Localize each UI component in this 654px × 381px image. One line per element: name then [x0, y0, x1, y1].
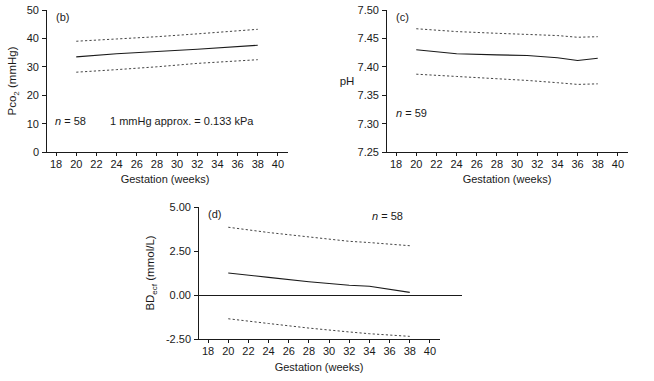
- series-line-c-lower-95-limit: [416, 74, 598, 84]
- x-tick-label-c: 22: [430, 158, 442, 170]
- x-tick-label-d: 32: [343, 345, 355, 357]
- sample-size-value-d: = 58: [378, 210, 403, 222]
- sample-size-value-b: = 58: [61, 115, 86, 127]
- series-line-d-lower-95-limit: [228, 319, 410, 337]
- sample-size-annotation-c: n = 59: [396, 107, 427, 119]
- x-tick-label-d: 22: [242, 345, 254, 357]
- y-tick-label-c: 7.35: [358, 89, 379, 101]
- y-tick-label-c: 7.40: [358, 61, 379, 73]
- y-tick-label-b: 40: [27, 32, 39, 44]
- x-tick-label-b: 20: [70, 158, 82, 170]
- x-tick-label-c: 28: [491, 158, 503, 170]
- panel-c-x-ticks: 182022242628303234363840: [390, 152, 624, 170]
- series-line-b-upper-95-limit: [76, 29, 258, 41]
- x-axis-title-d: Gestation (weeks): [275, 361, 364, 373]
- x-tick-label-d: 18: [202, 345, 214, 357]
- panel-b-x-ticks: 182022242628303234363840: [50, 152, 284, 170]
- y-tick-label-d: 2.50: [170, 245, 191, 257]
- x-tick-label-c: 26: [471, 158, 483, 170]
- x-tick-label-b: 26: [131, 158, 143, 170]
- y-tick-label-d: -2.50: [166, 333, 191, 345]
- panel-d-y-ticks: -2.500.002.505.00: [166, 201, 198, 345]
- x-tick-label-d: 26: [283, 345, 295, 357]
- svg-text:Pco2 (mmHg): Pco2 (mmHg): [6, 46, 21, 115]
- series-line-b-lower-95-limit: [76, 60, 258, 72]
- x-tick-label-b: 22: [90, 158, 102, 170]
- y-tick-label-c: 7.25: [358, 146, 379, 158]
- sample-size-annotation-b: n = 58: [55, 115, 86, 127]
- x-tick-label-b: 38: [252, 158, 264, 170]
- x-tick-label-c: 24: [450, 158, 462, 170]
- chart-panel-b: 01020304050 182022242628303234363840 (b)…: [0, 0, 330, 195]
- series-line-c-upper-95-limit: [416, 29, 598, 38]
- series-line-c-mean: [416, 50, 598, 61]
- unit-conversion-annotation-b: 1 mmHg approx. = 0.133 kPa: [110, 115, 254, 127]
- x-tick-label-c: 36: [571, 158, 583, 170]
- x-tick-label-b: 28: [151, 158, 163, 170]
- y-tick-label-b: 20: [27, 89, 39, 101]
- y-axis-title-c: pH: [340, 75, 355, 87]
- y-axis-title-b: Pco2 (mmHg): [6, 46, 21, 115]
- x-tick-label-d: 30: [323, 345, 335, 357]
- y-tick-label-d: 0.00: [170, 289, 191, 301]
- x-tick-label-d: 28: [303, 345, 315, 357]
- y-axis-title-b-main: Pco: [6, 96, 18, 116]
- x-axis-title-c: Gestation (weeks): [463, 173, 552, 185]
- y-tick-label-c: 7.45: [358, 32, 379, 44]
- x-tick-label-c: 30: [511, 158, 523, 170]
- x-tick-label-d: 36: [383, 345, 395, 357]
- panel-b-series: [76, 29, 258, 72]
- y-tick-label-b: 50: [27, 4, 39, 16]
- x-tick-label-c: 18: [390, 158, 402, 170]
- sample-size-annotation-d: n = 58: [372, 210, 403, 222]
- x-tick-label-c: 32: [531, 158, 543, 170]
- x-tick-label-c: 38: [592, 158, 604, 170]
- y-axis-title-d-main: BD: [144, 295, 156, 311]
- panel-letter-c: (c): [396, 11, 409, 23]
- sample-size-value-c: = 59: [402, 107, 427, 119]
- y-axis-title-b-unit: (mmHg): [6, 46, 18, 91]
- x-tick-label-b: 40: [272, 158, 284, 170]
- x-tick-label-c: 34: [551, 158, 563, 170]
- chart-svg-b: 01020304050 182022242628303234363840 (b)…: [0, 0, 330, 195]
- x-tick-label-b: 24: [110, 158, 122, 170]
- panel-c-series: [416, 29, 598, 85]
- panel-d-series: [228, 227, 410, 336]
- x-tick-label-d: 38: [404, 345, 416, 357]
- x-axis-title-b: Gestation (weeks): [121, 173, 210, 185]
- y-tick-label-c: 7.50: [358, 4, 379, 16]
- panel-letter-d: (d): [208, 208, 221, 220]
- y-axis-title-d: BDecf (mmol/L): [144, 235, 159, 310]
- x-tick-label-b: 18: [50, 158, 62, 170]
- chart-svg-c: 7.257.307.357.407.457.50 182022242628303…: [330, 0, 654, 195]
- panel-c-y-ticks: 7.257.307.357.407.457.50: [358, 4, 386, 158]
- series-line-b-mean: [76, 45, 258, 57]
- x-tick-label-d: 34: [363, 345, 375, 357]
- panel-letter-b: (b): [56, 11, 69, 23]
- y-tick-label-c: 7.30: [358, 118, 379, 130]
- x-tick-label-d: 20: [222, 345, 234, 357]
- series-line-d-upper-95-limit: [228, 227, 410, 245]
- panel-c-axes: [386, 10, 628, 152]
- series-line-d-mean: [228, 273, 410, 292]
- y-tick-label-b: 0: [33, 146, 39, 158]
- y-tick-label-d: 5.00: [170, 201, 191, 213]
- chart-svg-d: -2.500.002.505.00 1820222426283032343638…: [132, 193, 532, 381]
- x-tick-label-b: 32: [191, 158, 203, 170]
- x-tick-label-d: 24: [262, 345, 274, 357]
- figure-container: 01020304050 182022242628303234363840 (b)…: [0, 0, 654, 381]
- y-axis-title-d-unit: (mmol/L): [144, 235, 156, 284]
- panel-d-x-ticks: 182022242628303234363840: [202, 339, 436, 357]
- x-tick-label-d: 40: [424, 345, 436, 357]
- x-tick-label-b: 30: [171, 158, 183, 170]
- x-tick-label-c: 40: [612, 158, 624, 170]
- x-tick-label-b: 34: [211, 158, 223, 170]
- panel-b-y-ticks: 01020304050: [27, 4, 46, 158]
- y-tick-label-b: 10: [27, 118, 39, 130]
- x-tick-label-b: 36: [231, 158, 243, 170]
- y-tick-label-b: 30: [27, 61, 39, 73]
- x-tick-label-c: 20: [410, 158, 422, 170]
- svg-text:BDecf (mmol/L): BDecf (mmol/L): [144, 235, 159, 310]
- chart-panel-d: -2.500.002.505.00 1820222426283032343638…: [132, 193, 532, 381]
- panel-b-axes: [46, 10, 288, 152]
